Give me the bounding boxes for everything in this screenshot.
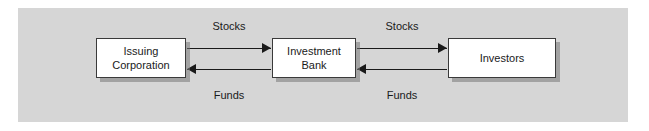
arrow-shaft <box>357 69 447 70</box>
node-investors-line1: Investors <box>480 51 525 65</box>
arrow-shaft <box>187 48 271 49</box>
flow-diagram: Issuing Corporation Investment Bank Inve… <box>0 0 649 131</box>
node-investment-bank-line2: Bank <box>287 58 341 72</box>
arrow-head-right-icon <box>262 43 271 53</box>
arrow-head-left-icon <box>357 64 366 74</box>
edge-label-funds-left: Funds <box>187 89 271 101</box>
edge-label-stocks-right: Stocks <box>357 20 447 32</box>
arrow-funds-bank-to-issuing <box>187 64 271 75</box>
edge-label-funds-right: Funds <box>357 89 447 101</box>
arrow-head-right-icon <box>438 43 447 53</box>
node-issuing-corporation: Issuing Corporation <box>96 38 186 78</box>
node-issuing-corporation-line2: Corporation <box>112 58 169 72</box>
node-issuing-corporation-line1: Issuing <box>112 44 169 58</box>
node-investment-bank: Investment Bank <box>272 38 356 78</box>
arrow-shaft <box>357 48 447 49</box>
edge-label-stocks-left: Stocks <box>187 20 271 32</box>
node-investment-bank-line1: Investment <box>287 44 341 58</box>
node-investors: Investors <box>448 38 556 78</box>
arrow-stocks-bank-to-investors <box>357 43 447 54</box>
arrow-funds-investors-to-bank <box>357 64 447 75</box>
arrow-shaft <box>187 69 271 70</box>
arrow-head-left-icon <box>187 64 196 74</box>
arrow-stocks-issuing-to-bank <box>187 43 271 54</box>
